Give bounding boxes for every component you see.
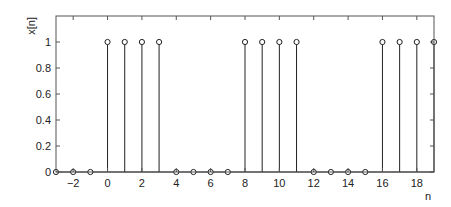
stem-marker — [380, 39, 385, 44]
x-axis-label: n — [425, 190, 431, 202]
stem-marker — [260, 39, 265, 44]
y-tick-label: 0.2 — [36, 140, 51, 152]
stem-marker — [156, 39, 161, 44]
x-tick-label: 4 — [173, 177, 179, 189]
stem-marker — [414, 39, 419, 44]
stem-marker — [397, 39, 402, 44]
x-tick-label: 14 — [342, 177, 354, 189]
y-tick-label: 0.8 — [36, 62, 51, 74]
y-tick-label: 0.4 — [36, 114, 51, 126]
x-tick-label: −2 — [67, 177, 80, 189]
x-tick-label: 10 — [273, 177, 285, 189]
y-axis-label: x[n] — [25, 17, 37, 35]
x-tick-label: 0 — [104, 177, 110, 189]
y-tick-label: 0 — [45, 166, 51, 178]
x-tick-label: 2 — [139, 177, 145, 189]
stem-marker — [277, 39, 282, 44]
stem-marker — [105, 39, 110, 44]
x-tick-label: 12 — [308, 177, 320, 189]
stem-marker — [242, 39, 247, 44]
x-tick-label: 6 — [208, 177, 214, 189]
x-tick-label: 18 — [411, 177, 423, 189]
stem-marker — [139, 39, 144, 44]
y-tick-label: 1 — [45, 36, 51, 48]
stem-marker — [122, 39, 127, 44]
stem-plot: −2024681012141618 00.20.40.60.81 n x[n] — [0, 0, 451, 207]
y-axis: 00.20.40.60.81 — [36, 36, 434, 178]
y-tick-label: 0.6 — [36, 88, 51, 100]
stem-series — [53, 39, 436, 174]
x-tick-label: 8 — [242, 177, 248, 189]
x-tick-label: 16 — [376, 177, 388, 189]
stem-marker — [294, 39, 299, 44]
